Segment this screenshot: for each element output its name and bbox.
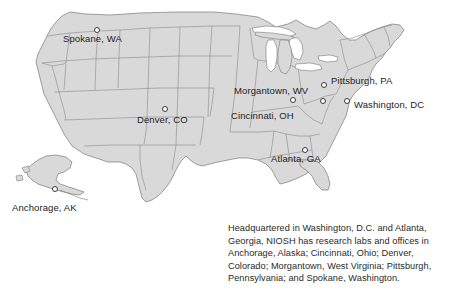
- city-label-morgantown: Morgantown, WV: [234, 85, 308, 96]
- city-label-washington-dc: Washington, DC: [354, 99, 424, 110]
- city-label-denver: Denver, CO: [137, 114, 188, 125]
- city-marker-anchorage: [52, 186, 58, 192]
- city-label-cincinnati: Cincinnati, OH: [231, 110, 294, 121]
- caption-line-5: Pennsylvania; and Spokane, Washington.: [228, 272, 456, 285]
- lake-michigan: [266, 40, 277, 72]
- caption-line-3: Anchorage, Alaska; Cincinnati, Ohio; Den…: [228, 247, 456, 260]
- niosh-locations-figure: Spokane, WA Denver, CO Morgantown, WV Ci…: [0, 0, 462, 297]
- city-label-atlanta: Atlanta, GA: [271, 153, 321, 164]
- city-marker-washington-dc: [344, 98, 350, 104]
- city-marker-cincinnati: [290, 97, 296, 103]
- city-label-spokane: Spokane, WA: [63, 33, 122, 44]
- figure-caption: Headquartered in Washington, D.C. and At…: [228, 222, 456, 285]
- city-marker-denver: [162, 106, 168, 112]
- caption-line-4: Colorado; Morgantown, West Virginia; Pit…: [228, 260, 456, 273]
- city-label-pittsburgh: Pittsburgh, PA: [331, 75, 392, 86]
- caption-line-1: Headquartered in Washington, D.C. and At…: [228, 222, 456, 235]
- city-label-anchorage: Anchorage, AK: [12, 202, 77, 213]
- caption-line-2: Georgia, NIOSH has research labs and off…: [228, 235, 456, 248]
- city-marker-pittsburgh: [321, 82, 327, 88]
- alaska-inset: [16, 155, 88, 200]
- city-marker-morgantown: [320, 98, 326, 104]
